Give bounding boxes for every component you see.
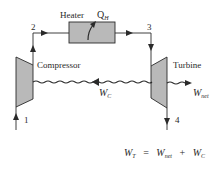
eq-term1: W xyxy=(156,147,164,158)
arrow-down-icon xyxy=(148,44,154,51)
arrow-up-icon xyxy=(13,113,19,120)
turbine-label: Turbine xyxy=(173,61,201,70)
net-work-line xyxy=(167,82,185,84)
arrow-right-icon xyxy=(41,30,48,36)
shaft-work-label: WC xyxy=(99,88,111,98)
state-label-4: 4 xyxy=(175,116,180,125)
eq-lhs-sub: T xyxy=(132,153,135,159)
state-label-2: 2 xyxy=(31,23,36,32)
work-balance-equation: WT = Wnet + WC xyxy=(124,148,205,158)
eq-plus: + xyxy=(180,147,186,158)
heat-input-subscript: H xyxy=(104,15,108,21)
state-label-3: 3 xyxy=(147,23,152,32)
arrow-up-icon xyxy=(30,45,36,52)
eq-term1-sub: net xyxy=(165,153,172,159)
compressor-shape xyxy=(16,57,33,107)
state-label-1: 1 xyxy=(24,116,29,125)
shaft-work-subscript: C xyxy=(107,93,111,99)
turbine-shape xyxy=(151,57,167,108)
eq-equals: = xyxy=(143,147,149,158)
arrow-left-icon xyxy=(92,78,99,86)
flow-arrows xyxy=(13,30,170,125)
arrow-down-icon xyxy=(164,118,170,125)
net-work-label: Wnet xyxy=(193,88,209,98)
net-work-subscript: net xyxy=(201,93,208,99)
eq-term2: W xyxy=(193,147,201,158)
heater-label: Heater xyxy=(60,11,84,20)
eq-term2-sub: C xyxy=(201,153,205,159)
heat-input-label: QH xyxy=(97,10,109,20)
arrow-right-icon xyxy=(185,80,192,86)
arrow-right-icon xyxy=(126,30,133,36)
brayton-cycle-diagram: Heater QH 2 3 1 4 Compressor Turbine WC … xyxy=(0,0,221,175)
compressor-label: Compressor xyxy=(37,61,81,70)
